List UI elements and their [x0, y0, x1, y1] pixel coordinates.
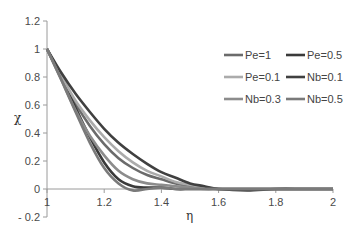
legend-item: Pe=1 [224, 49, 271, 61]
legend-item: Nb=0.3 [224, 93, 281, 105]
legend-item: Pe=0.1 [224, 71, 280, 83]
legend-label: Pe=1 [245, 49, 271, 61]
legend-label: Nb=0.5 [307, 93, 343, 105]
y-tick-label: - 0.2 [18, 211, 40, 223]
x-tick-label: 1.2 [97, 196, 112, 208]
y-tick-label: 0.6 [25, 99, 40, 111]
legend-label: Pe=0.5 [307, 49, 342, 61]
x-tick-label: 1 [44, 196, 50, 208]
series-line-pe-0-1 [47, 49, 333, 189]
y-tick-label: 0.2 [25, 155, 40, 167]
x-tick-label: 2 [330, 196, 336, 208]
y-tick-label: 1.2 [25, 15, 40, 27]
plot-series [47, 49, 333, 191]
legend-label: Pe=0.1 [245, 71, 280, 83]
x-tick-label: 1.8 [268, 196, 283, 208]
x-axis-ticks: 11.21.41.61.82 [44, 189, 336, 208]
y-tick-label: 0 [34, 183, 40, 195]
y-axis-ticks: 1.210.80.60.40.20- 0.2 [18, 15, 47, 223]
legend: Pe=1Pe=0.5Pe=0.1Nb=0.1Nb=0.3Nb=0.5 [224, 49, 343, 105]
y-tick-label: 1 [34, 43, 40, 55]
x-tick-label: 1.6 [211, 196, 226, 208]
legend-item: Nb=0.1 [286, 71, 343, 83]
chart: 1.210.80.60.40.20- 0.2 11.21.41.61.82 Pe… [0, 0, 356, 234]
legend-label: Nb=0.3 [245, 93, 281, 105]
x-axis-label: η [186, 209, 193, 223]
y-tick-label: 0.8 [25, 71, 40, 83]
x-tick-label: 1.4 [154, 196, 169, 208]
y-tick-label: 0.4 [25, 127, 40, 139]
legend-item: Pe=0.5 [286, 49, 342, 61]
legend-item: Nb=0.5 [286, 93, 343, 105]
legend-label: Nb=0.1 [307, 71, 343, 83]
y-axis-label: χ [14, 111, 22, 125]
